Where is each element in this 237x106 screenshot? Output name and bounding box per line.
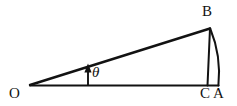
- angle-label-theta: θ: [92, 65, 99, 80]
- vertical-line-BC: [208, 29, 211, 86]
- arc-BA: [210, 29, 219, 86]
- vertex-label-b: B: [202, 4, 212, 19]
- vertex-label-o: O: [9, 86, 20, 101]
- hypotenuse-line-OB: [30, 29, 210, 86]
- geometry-figure: O B C A θ: [0, 0, 237, 106]
- point-label-c: C: [200, 86, 210, 101]
- point-label-a: A: [213, 86, 224, 101]
